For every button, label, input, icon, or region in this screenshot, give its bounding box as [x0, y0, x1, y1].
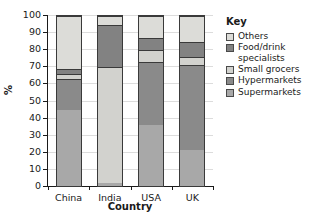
y-axis-tick [43, 169, 47, 170]
legend-item-label: Hypermarkets [238, 75, 302, 85]
x-axis-tick [172, 186, 173, 190]
y-axis-tick-label: 0 [35, 181, 41, 191]
stacked-bar[interactable] [179, 15, 205, 187]
legend-item[interactable]: Hypermarkets [226, 75, 308, 85]
bar-segment[interactable] [139, 16, 163, 38]
bar-group[interactable] [138, 15, 164, 187]
legend-item-label: Supermarkets [238, 87, 301, 97]
y-axis-tick-label: 60 [29, 79, 41, 89]
y-axis-tick [43, 83, 47, 84]
legend-swatch-icon [226, 89, 234, 97]
y-axis-tick [43, 186, 47, 187]
bar-series-container [48, 15, 213, 187]
legend-swatch-icon [226, 66, 234, 74]
legend-swatch-icon [226, 44, 234, 52]
x-axis-tick [213, 186, 214, 190]
y-axis-tick [43, 135, 47, 136]
legend-item[interactable]: Others [226, 31, 308, 41]
y-axis-tick-label: 20 [29, 147, 41, 157]
stacked-bar[interactable] [138, 15, 164, 187]
y-axis-tick [43, 101, 47, 102]
y-axis-tick-label: 50 [29, 96, 41, 106]
bar-segment[interactable] [98, 67, 122, 183]
y-axis-tick-label: 90 [29, 27, 41, 37]
y-axis-tick-label: 10 [29, 164, 41, 174]
bar-segment[interactable] [57, 16, 81, 69]
bar-segment[interactable] [139, 38, 163, 50]
y-axis-tick [43, 15, 47, 16]
bar-segment[interactable] [98, 16, 122, 25]
x-axis-title: Country [47, 201, 213, 212]
bar-segment[interactable] [180, 57, 204, 66]
y-axis-tick-label: 40 [29, 113, 41, 123]
y-axis-tick [43, 32, 47, 33]
y-axis-title: % [3, 85, 14, 95]
bar-segment[interactable] [57, 79, 81, 110]
bar-segment[interactable] [57, 110, 81, 187]
legend-swatch-icon [226, 33, 234, 41]
legend-item[interactable]: Supermarkets [226, 87, 308, 97]
bar-segment[interactable] [180, 16, 204, 42]
legend-item-label: Small grocers [238, 64, 299, 74]
stacked-bar[interactable] [97, 15, 123, 187]
bar-segment[interactable] [98, 183, 122, 186]
chart-root: % 0102030405060708090100 ChinaIndiaUSAUK… [0, 0, 310, 223]
bar-segment[interactable] [180, 42, 204, 57]
legend: Key OthersFood/drink specialistsSmall gr… [226, 16, 308, 98]
x-axis-tick [89, 186, 90, 190]
y-axis-tick [43, 49, 47, 50]
bar-segment[interactable] [180, 65, 204, 150]
y-axis-tick [43, 152, 47, 153]
plot-area: 0102030405060708090100 ChinaIndiaUSAUK [47, 15, 213, 187]
bar-segment[interactable] [57, 69, 81, 74]
bar-group[interactable] [97, 15, 123, 187]
legend-title: Key [226, 16, 308, 27]
legend-items: OthersFood/drink specialistsSmall grocer… [226, 31, 308, 97]
legend-item[interactable]: Food/drink specialists [226, 42, 308, 63]
y-axis-tick-label: 80 [29, 44, 41, 54]
legend-swatch-icon [226, 77, 234, 85]
bar-segment[interactable] [139, 125, 163, 186]
legend-item[interactable]: Small grocers [226, 64, 308, 74]
x-axis-tick [131, 186, 132, 190]
x-axis-tick [48, 186, 49, 190]
y-axis-tick-label: 70 [29, 62, 41, 72]
legend-item-label: Others [238, 31, 268, 41]
y-axis-tick [43, 118, 47, 119]
stacked-bar[interactable] [56, 15, 82, 187]
y-axis-tick-label: 30 [29, 130, 41, 140]
bar-group[interactable] [179, 15, 205, 187]
bar-segment[interactable] [139, 62, 163, 125]
bar-segment[interactable] [98, 25, 122, 68]
legend-item-label: Food/drink specialists [238, 42, 308, 63]
bar-segment[interactable] [57, 74, 81, 79]
y-axis-tick [43, 66, 47, 67]
bar-segment[interactable] [180, 150, 204, 186]
bar-group[interactable] [56, 15, 82, 187]
y-axis-tick-label: 100 [23, 10, 41, 20]
bar-segment[interactable] [139, 50, 163, 62]
